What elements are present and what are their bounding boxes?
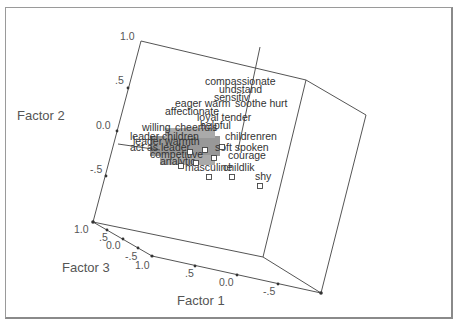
point-labels: compassionateundstandsensitivsoothe hurt… xyxy=(130,75,288,182)
square-marker-icon xyxy=(179,164,184,169)
tick-factor3-3: 0.0 xyxy=(106,239,121,251)
tick-factor2-4: -.5 xyxy=(90,163,102,175)
tick-factor2-1: 1.0 xyxy=(120,30,135,42)
tick-factor1-2: 0.0 xyxy=(219,276,234,288)
tick-factor2-2: .5 xyxy=(115,74,124,86)
point-label: childlik xyxy=(223,161,255,173)
tick-factor3-5: 1.0 xyxy=(135,259,150,271)
point-label: shy xyxy=(255,170,272,182)
tick-factor1-1: .5 xyxy=(185,267,194,279)
square-marker-icon xyxy=(188,150,193,155)
tick-factor2-3: 0.0 xyxy=(96,119,111,131)
square-marker-icon xyxy=(203,148,208,153)
square-marker-icon xyxy=(207,175,212,180)
square-marker-icon xyxy=(230,175,235,180)
axis-title-factor1: Factor 1 xyxy=(177,293,225,308)
square-marker-icon xyxy=(220,145,225,150)
square-marker-icon xyxy=(194,161,199,166)
axis-title-factor3: Factor 3 xyxy=(62,260,110,275)
square-marker-icon xyxy=(258,184,263,189)
point-label: soothe hurt xyxy=(235,97,288,109)
point-label: courage xyxy=(228,149,266,161)
axis-title-factor2: Factor 2 xyxy=(17,108,65,123)
tick-factor3-1: 1.0 xyxy=(74,223,89,235)
tick-factor1-3: -.5 xyxy=(263,285,275,297)
square-marker-icon xyxy=(212,156,217,161)
scatter-3d-chart: Factor 2 Factor 3 Factor 1 1.0 .5 0.0 -.… xyxy=(0,0,456,330)
